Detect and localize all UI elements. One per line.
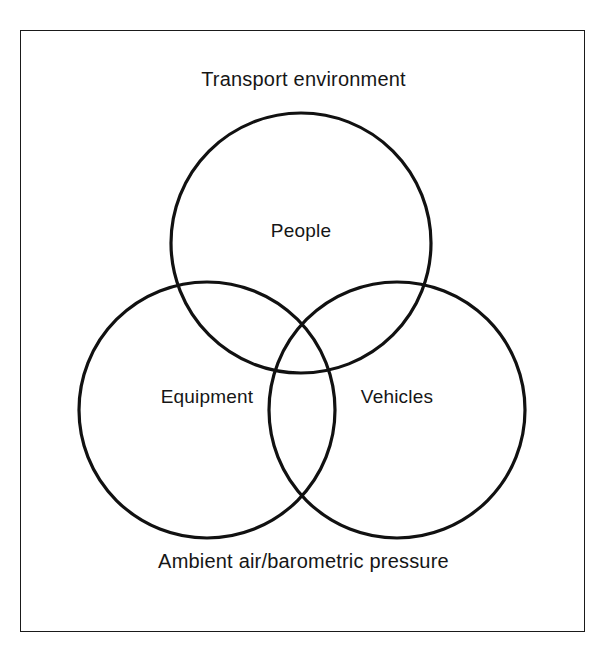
figure-border: [20, 30, 585, 632]
caption-transport-environment: Transport environment: [0, 68, 607, 91]
venn-label-equipment: Equipment: [122, 386, 292, 408]
caption-ambient-air-barometric-pressure: Ambient air/barometric pressure: [0, 550, 607, 573]
figure-root: Transport environment People Equipment V…: [0, 0, 607, 655]
venn-label-people: People: [231, 220, 371, 242]
venn-label-vehicles: Vehicles: [327, 386, 467, 408]
